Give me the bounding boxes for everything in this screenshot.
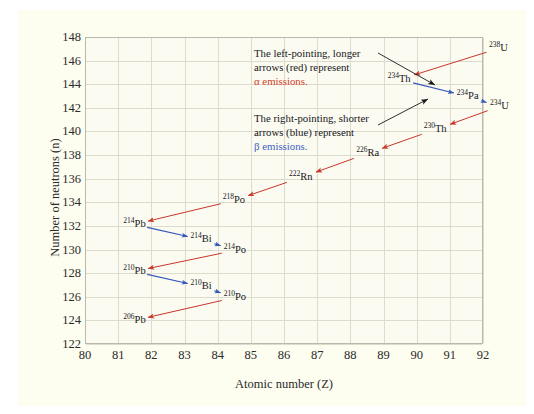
mass-number: 214 bbox=[191, 230, 202, 239]
element-symbol: Pb bbox=[135, 218, 146, 229]
y-axis-title-wrapper: Number of neutrons (n) bbox=[32, 40, 52, 340]
gridline-horizontal bbox=[86, 344, 482, 345]
element-symbol: Pb bbox=[135, 265, 146, 276]
mass-number: 234 bbox=[388, 71, 399, 80]
alpha-note-line-3: α emissions. bbox=[254, 74, 360, 88]
element-symbol: Th bbox=[435, 123, 447, 134]
gridline-horizontal bbox=[86, 155, 482, 156]
alpha-emission-note: The left-pointing, longer arrows (red) r… bbox=[254, 46, 360, 88]
element-symbol: Rn bbox=[300, 171, 312, 182]
gridline-vertical bbox=[483, 38, 484, 343]
element-symbol: Po bbox=[235, 291, 246, 302]
element-symbol: Po bbox=[235, 244, 246, 255]
nuclide-label-u234: 234U bbox=[490, 101, 509, 112]
element-symbol: U bbox=[500, 42, 508, 53]
element-symbol: Bi bbox=[202, 280, 212, 291]
element-symbol: Bi bbox=[202, 233, 212, 244]
nuclide-label-bi210: 210Bi bbox=[191, 281, 212, 292]
gridline-horizontal bbox=[86, 108, 482, 109]
mass-number: 218 bbox=[223, 192, 234, 201]
nuclide-label-po218: 218Po bbox=[223, 195, 245, 206]
gridline-horizontal bbox=[86, 250, 482, 251]
nuclide-label-pa234: 234Pa bbox=[457, 91, 479, 102]
figure-page: 1481461441421401381361341321301281261241… bbox=[0, 0, 534, 414]
mass-number: 222 bbox=[289, 168, 300, 177]
mass-number: 234 bbox=[490, 97, 501, 106]
mass-number: 214 bbox=[224, 241, 235, 250]
gridline-horizontal bbox=[86, 202, 482, 203]
mass-number: 238 bbox=[489, 39, 500, 48]
element-symbol: Ra bbox=[368, 147, 380, 158]
gridline-horizontal bbox=[86, 179, 482, 180]
mass-number: 210 bbox=[224, 288, 235, 297]
beta-note-line-1: The right-pointing, shorter bbox=[254, 111, 369, 125]
x-axis-tick-labels: 80818283848586878889909192 bbox=[85, 349, 483, 367]
decay-chain-chart: 1481461441421401381361341321301281261241… bbox=[0, 0, 534, 414]
nuclide-label-po214: 214Po bbox=[224, 245, 246, 256]
element-symbol: U bbox=[501, 100, 509, 111]
mass-number: 206 bbox=[123, 312, 134, 321]
nuclide-label-pb206: 206Pb bbox=[123, 315, 145, 326]
nuclide-label-bi214: 214Bi bbox=[191, 234, 212, 245]
nuclide-label-u238: 238U bbox=[489, 43, 508, 54]
alpha-note-line-1: The left-pointing, longer bbox=[254, 46, 360, 60]
beta-note-line-2: arrows (blue) represent bbox=[254, 125, 369, 139]
alpha-note-line-2: arrows (red) represent bbox=[254, 60, 360, 74]
element-symbol: Th bbox=[399, 73, 411, 84]
x-axis-tick-label: 92 bbox=[463, 349, 503, 362]
nuclide-label-po210: 210Po bbox=[224, 292, 246, 303]
element-symbol: Pa bbox=[468, 90, 479, 101]
beta-note-line-3: β emissions. bbox=[254, 139, 369, 153]
nuclide-label-th234: 234Th bbox=[388, 74, 411, 85]
mass-number: 210 bbox=[191, 277, 202, 286]
nuclide-label-pb214: 214Pb bbox=[123, 219, 145, 230]
element-symbol: Po bbox=[234, 194, 245, 205]
nuclide-label-th230: 230Th bbox=[424, 124, 447, 135]
mass-number: 230 bbox=[424, 121, 435, 130]
mass-number: 214 bbox=[123, 215, 134, 224]
x-axis-title: Atomic number (Z) bbox=[85, 377, 483, 392]
beta-emission-note: The right-pointing, shorter arrows (blue… bbox=[254, 111, 369, 153]
nuclide-label-rn222: 222Rn bbox=[289, 172, 313, 183]
mass-number: 234 bbox=[457, 88, 468, 97]
nuclide-label-pb210: 210Pb bbox=[123, 266, 145, 277]
gridline-horizontal bbox=[86, 297, 482, 298]
element-symbol: Pb bbox=[135, 314, 146, 325]
mass-number: 210 bbox=[123, 263, 134, 272]
y-axis-title: Number of neutrons (n) bbox=[48, 108, 63, 288]
